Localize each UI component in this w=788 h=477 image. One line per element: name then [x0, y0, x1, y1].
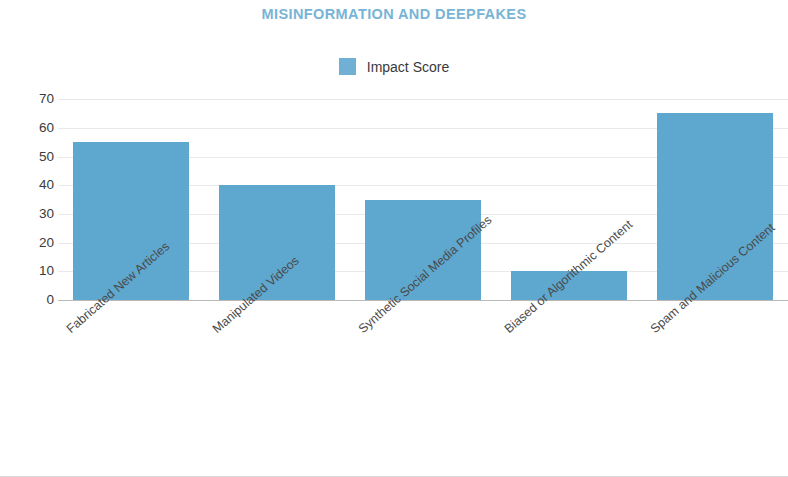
chart-canvas: MISINFORMATION AND DEEPFAKES Impact Scor…	[0, 0, 788, 477]
bar-series	[0, 0, 788, 477]
